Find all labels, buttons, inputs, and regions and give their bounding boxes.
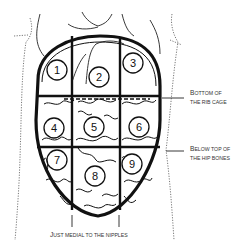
- region-7: 7: [47, 150, 67, 170]
- svg-text:4: 4: [51, 122, 57, 134]
- region-2: 2: [89, 67, 109, 87]
- svg-text:5: 5: [91, 121, 97, 133]
- region-5: 5: [84, 117, 104, 137]
- svg-text:8: 8: [92, 170, 98, 182]
- nipples-label: JUST MEDIAL TO THE NIPPLES: [50, 231, 128, 238]
- region-8: 8: [85, 166, 105, 186]
- hip-bones-label-line1: BELOW TOP OF: [190, 145, 230, 152]
- rib-cage-label-line1: BOTTOM OF: [190, 89, 222, 96]
- svg-text:1: 1: [54, 64, 60, 76]
- region-markers: 1 2 3 4 5 6 7 8 9: [44, 53, 149, 186]
- region-9: 9: [122, 154, 142, 174]
- region-4: 4: [44, 118, 64, 138]
- region-3: 3: [123, 53, 143, 73]
- region-1: 1: [47, 60, 67, 80]
- abdomen-diagram: 1 2 3 4 5 6 7 8 9 BOTTOM OF THE RIB CAGE…: [0, 0, 247, 247]
- hip-bones-label-line2: THE HIP BONES: [190, 155, 231, 161]
- region-6: 6: [129, 117, 149, 137]
- svg-text:3: 3: [130, 57, 136, 69]
- svg-text:7: 7: [54, 154, 60, 166]
- svg-text:9: 9: [129, 158, 135, 170]
- svg-text:2: 2: [96, 71, 102, 83]
- rib-cage-label-line2: THE RIB CAGE: [190, 99, 227, 105]
- svg-text:6: 6: [136, 121, 142, 133]
